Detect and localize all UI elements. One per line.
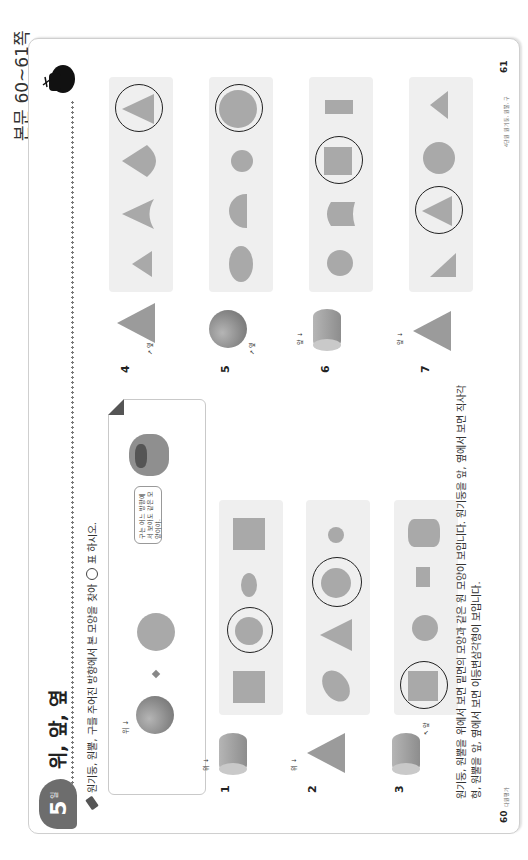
page-title: 위, 앞, 옆	[43, 690, 70, 769]
problem-number: 3	[393, 785, 406, 793]
footer-left-label: 다원평가	[502, 787, 509, 807]
option-right-triangle[interactable]	[429, 252, 457, 278]
option-triangle[interactable]	[318, 617, 354, 653]
character-illustration	[129, 434, 169, 476]
option-circle[interactable]	[235, 617, 263, 645]
option-small-triangle[interactable]	[131, 250, 153, 278]
option-square[interactable]	[233, 671, 265, 703]
direction-label: 앞 ↓	[295, 332, 304, 345]
option-rounded-rect[interactable]	[408, 519, 440, 547]
option-circle[interactable]	[412, 615, 438, 641]
problem-number: 1	[219, 785, 232, 793]
day-badge: 5 일	[39, 779, 77, 829]
option-circle[interactable]	[423, 142, 455, 174]
problem-number: 6	[319, 365, 332, 373]
circle-mark-icon	[86, 568, 98, 580]
options-panel-7	[409, 77, 473, 292]
page-number-right: 61	[499, 60, 509, 73]
problem-number: 5	[219, 365, 232, 373]
option-small-circle[interactable]	[231, 150, 253, 172]
options-panel-5	[209, 77, 273, 292]
options-panel-4	[109, 77, 173, 292]
option-rectangle[interactable]	[416, 567, 430, 587]
option-ellipse[interactable]	[241, 573, 257, 597]
direction-label: 위 ↓	[289, 758, 298, 771]
options-panel-3	[394, 500, 458, 715]
option-rounded-triangle[interactable]	[121, 144, 157, 178]
options-panel-1	[219, 500, 283, 715]
option-square[interactable]	[408, 671, 438, 701]
option-circle[interactable]	[219, 90, 257, 128]
footer-right-label: 4단원 원기둥, 원뿔, 구	[502, 96, 509, 147]
direction-label: 위 ↓	[120, 720, 130, 734]
option-ellipse[interactable]	[316, 665, 355, 707]
option-ellipse[interactable]	[229, 246, 253, 282]
option-concave-triangle[interactable]	[121, 198, 155, 230]
option-half-circle[interactable]	[229, 194, 247, 228]
cone-solid	[307, 733, 345, 773]
direction-label: ↗ 옆	[145, 342, 154, 355]
direction-label: ↗ 옆	[247, 342, 256, 355]
worksheet-card: 5 일 위, 앞, 옆 원기둥, 원뿔, 구를 주어진 방향에서 본 모양을 찾…	[28, 38, 520, 834]
mascot-icon	[41, 61, 77, 97]
cone-solid	[413, 311, 451, 351]
example-box: 위 ↓ 구는 어느 방향에서 보아도 같은 모양이야.	[108, 399, 206, 795]
option-square[interactable]	[233, 518, 265, 550]
page-number-left: 60	[499, 810, 509, 823]
instruction: 원기둥, 원뿔, 구를 주어진 방향에서 본 모양을 찾아 표 하시오.	[84, 522, 99, 809]
cylinder-solid	[313, 309, 341, 349]
example-circle	[137, 613, 175, 651]
direction-label: 위 ↓	[201, 758, 210, 771]
option-triangle[interactable]	[121, 93, 155, 125]
speech-bubble: 구는 어느 방향에서 보아도 같은 모양이야.	[134, 486, 162, 544]
option-small-circle[interactable]	[328, 527, 344, 543]
rotated-page: 본문 60~61쪽 5 일 위, 앞, 옆 원기둥, 원뿔, 구를 주어진 방향…	[0, 0, 528, 860]
example-sphere	[136, 696, 174, 734]
cylinder-solid	[219, 733, 247, 773]
cylinder-solid	[392, 733, 420, 773]
page-fold-corner	[108, 399, 124, 415]
option-circle[interactable]	[327, 250, 353, 276]
dotted-divider	[71, 99, 74, 785]
problem-number: 2	[306, 785, 319, 793]
option-small-triangle[interactable]	[429, 90, 449, 120]
explanation-text: 원기둥, 원뿔을 위에서 보면 밑면의 모양과 같은 원 모양이 보입니다. 원…	[454, 379, 484, 799]
option-square[interactable]	[324, 147, 352, 175]
cone-solid	[117, 303, 155, 343]
sphere-solid	[209, 310, 247, 348]
option-circle[interactable]	[321, 568, 351, 598]
direction-label: 앞 ↓	[395, 332, 404, 345]
arrow-icon	[152, 670, 160, 678]
options-panel-6	[309, 77, 373, 292]
pencil-icon	[85, 796, 98, 810]
option-rectangle[interactable]	[325, 100, 353, 114]
option-triangle[interactable]	[421, 195, 453, 227]
option-concave-rect[interactable]	[323, 200, 357, 228]
problem-number: 7	[419, 365, 432, 373]
direction-label: ↖ 앞	[421, 722, 430, 735]
problem-number: 4	[119, 365, 132, 373]
options-panel-2	[306, 500, 370, 715]
